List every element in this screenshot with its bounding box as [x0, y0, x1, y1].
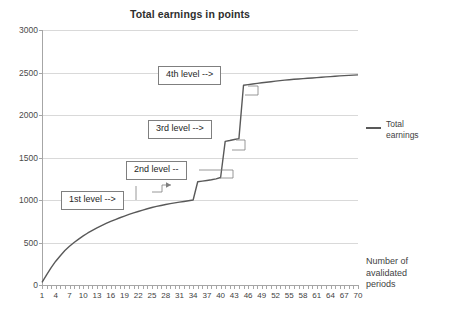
x-tick-mark-26 [157, 286, 158, 289]
x-tick-mark-35 [198, 286, 199, 289]
x-tick-mark-18 [120, 286, 121, 289]
x-tick-mark-8 [74, 286, 75, 289]
y-tick-mark-1500 [39, 158, 43, 159]
x-tick-mark-58 [303, 286, 304, 289]
x-tick-mark-7 [70, 286, 71, 289]
x-axis-title: Number of avalidated periods [366, 256, 450, 291]
x-tick-mark-33 [189, 286, 190, 289]
y-tick-mark-3000 [39, 30, 43, 31]
y-tick-label-0: 0 [33, 280, 38, 290]
x-tick-mark-56 [294, 286, 295, 289]
x-tick-mark-44 [239, 286, 240, 289]
x-tick-mark-49 [262, 286, 263, 289]
x-tick-mark-14 [102, 286, 103, 289]
x-tick-mark-60 [312, 286, 313, 289]
x-tick-mark-52 [276, 286, 277, 289]
x-tick-mark-53 [280, 286, 281, 289]
x-tick-mark-30 [175, 286, 176, 289]
x-tick-mark-65 [335, 286, 336, 289]
x-tick-mark-10 [83, 286, 84, 289]
x-tick-mark-23 [143, 286, 144, 289]
x-tick-mark-27 [161, 286, 162, 289]
x-tick-mark-47 [253, 286, 254, 289]
x-tick-mark-4 [56, 286, 57, 289]
x-tick-mark-16 [111, 286, 112, 289]
x-tick-mark-51 [271, 286, 272, 289]
y-tick-label-2000: 2000 [19, 110, 38, 120]
x-tick-mark-25 [152, 286, 153, 289]
x-tick-mark-6 [65, 286, 66, 289]
y-tick-label-1500: 1500 [19, 153, 38, 163]
x-tick-mark-61 [317, 286, 318, 289]
x-tick-mark-48 [257, 286, 258, 289]
y-tick-mark-2500 [39, 73, 43, 74]
annotation-3rd-level: 3rd level --> [148, 120, 212, 139]
x-tick-mark-32 [184, 286, 185, 289]
x-tick-mark-15 [106, 286, 107, 289]
x-tick-mark-57 [299, 286, 300, 289]
x-tick-mark-17 [115, 286, 116, 289]
y-tick-mark-1000 [39, 200, 43, 201]
chart-container: Total earnings in points 050010001500200… [0, 0, 454, 316]
x-tick-mark-55 [289, 286, 290, 289]
x-tick-mark-37 [207, 286, 208, 289]
x-tick-mark-59 [308, 286, 309, 289]
x-tick-mark-39 [216, 286, 217, 289]
x-tick-label-70: 70 [349, 291, 367, 300]
x-tick-mark-12 [92, 286, 93, 289]
x-tick-mark-34 [193, 286, 194, 289]
y-axis: 050010001500200025003000 [0, 0, 38, 316]
x-tick-mark-46 [248, 286, 249, 289]
x-tick-mark-62 [321, 286, 322, 289]
chart-legend: Total earnings [366, 119, 444, 140]
x-tick-mark-36 [202, 286, 203, 289]
x-tick-mark-45 [244, 286, 245, 289]
x-tick-mark-38 [211, 286, 212, 289]
x-tick-mark-68 [349, 286, 350, 289]
x-tick-mark-67 [344, 286, 345, 289]
x-tick-mark-24 [147, 286, 148, 289]
y-tick-label-500: 500 [24, 238, 38, 248]
x-tick-mark-31 [179, 286, 180, 289]
y-tick-mark-0 [39, 285, 43, 286]
x-tick-mark-43 [234, 286, 235, 289]
legend-label-total-earnings: Total earnings [386, 119, 444, 140]
annotation-1st-level: 1st level --> [61, 191, 124, 210]
x-axis-title-line3: periods [366, 279, 396, 289]
x-tick-mark-22 [138, 286, 139, 289]
x-tick-mark-70 [358, 286, 359, 289]
x-tick-mark-1 [42, 286, 43, 289]
y-tick-label-2500: 2500 [19, 68, 38, 78]
x-tick-mark-21 [134, 286, 135, 289]
x-tick-mark-29 [170, 286, 171, 289]
x-tick-mark-66 [340, 286, 341, 289]
x-tick-mark-9 [79, 286, 80, 289]
x-tick-mark-50 [266, 286, 267, 289]
x-tick-mark-42 [230, 286, 231, 289]
x-tick-mark-54 [285, 286, 286, 289]
x-tick-mark-2 [47, 286, 48, 289]
x-axis-title-line1: Number of [366, 256, 408, 266]
x-tick-mark-69 [353, 286, 354, 289]
y-tick-label-3000: 3000 [19, 25, 38, 35]
x-tick-mark-40 [221, 286, 222, 289]
y-tick-mark-500 [39, 243, 43, 244]
x-tick-mark-64 [331, 286, 332, 289]
y-tick-label-1000: 1000 [19, 195, 38, 205]
x-tick-mark-41 [225, 286, 226, 289]
legend-label-line2: earnings [386, 130, 419, 140]
x-axis-title-line2: avalidated [366, 268, 407, 278]
x-tick-mark-28 [166, 286, 167, 289]
chart-title: Total earnings in points [60, 8, 320, 20]
annotation-4th-level: 4th level --> [158, 66, 221, 85]
legend-line-swatch-icon [366, 123, 381, 132]
x-tick-mark-11 [88, 286, 89, 289]
annotation-2nd-level: 2nd level -- [126, 161, 187, 180]
x-tick-mark-13 [97, 286, 98, 289]
legend-label-line1: Total [386, 119, 404, 129]
y-tick-mark-2000 [39, 115, 43, 116]
x-tick-mark-63 [326, 286, 327, 289]
x-tick-mark-5 [60, 286, 61, 289]
x-tick-mark-20 [129, 286, 130, 289]
x-tick-mark-19 [124, 286, 125, 289]
